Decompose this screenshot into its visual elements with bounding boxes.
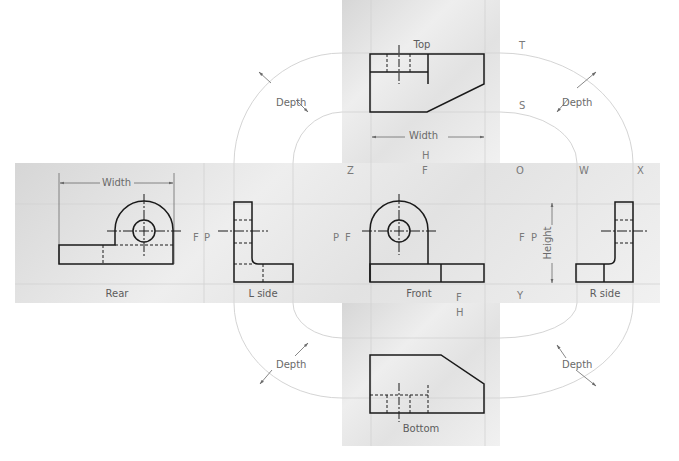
dimension-depth-lower-left: Depth	[276, 360, 306, 370]
fold-label-f-front-left: F	[345, 233, 351, 243]
fold-label-y: Y	[517, 291, 523, 301]
fold-label-x: X	[637, 166, 644, 176]
view-title-top: Top	[414, 40, 431, 50]
fold-label-f-bottom: F	[456, 293, 462, 303]
glass-box-diagram: Top Rear L side Front R side Bottom Widt…	[0, 0, 679, 461]
dimension-depth-upper-right: Depth	[562, 98, 592, 108]
dimension-height: Height	[543, 226, 553, 259]
fold-label-h-top: H	[422, 151, 430, 161]
dimension-width-rear: Width	[102, 178, 131, 188]
rear-view-geometry	[59, 194, 181, 264]
fold-label-o: O	[516, 166, 524, 176]
fold-label-w: W	[579, 166, 589, 176]
top-view-geometry	[370, 45, 484, 112]
fold-label-p-lside-right: P	[333, 233, 339, 243]
view-title-front: Front	[406, 289, 431, 299]
fold-label-t: T	[519, 41, 525, 51]
view-title-right-side: R side	[590, 289, 621, 299]
view-title-left-side: L side	[248, 289, 277, 299]
dimension-depth-lower-right: Depth	[562, 360, 592, 370]
fold-label-z: Z	[347, 166, 354, 176]
dimension-width-top: Width	[409, 131, 438, 141]
fold-label-f-front-right: F	[519, 233, 525, 243]
dimension-depth-upper-left: Depth	[276, 98, 306, 108]
left-side-view-geometry	[218, 202, 293, 282]
fold-lines	[15, 0, 660, 446]
fold-label-s: S	[519, 101, 525, 111]
fold-label-p-rside: P	[531, 233, 537, 243]
front-view-geometry	[362, 194, 484, 282]
bottom-view-geometry	[370, 355, 484, 422]
view-title-rear: Rear	[106, 289, 129, 299]
fold-label-f-rear: F	[193, 233, 199, 243]
view-title-bottom: Bottom	[403, 424, 440, 434]
right-side-view-geometry	[576, 202, 648, 282]
drawing-geometry	[0, 0, 679, 461]
fold-label-f-top: F	[422, 166, 428, 176]
fold-label-p-lside-left: P	[204, 233, 210, 243]
fold-label-h-bottom: H	[456, 308, 464, 318]
